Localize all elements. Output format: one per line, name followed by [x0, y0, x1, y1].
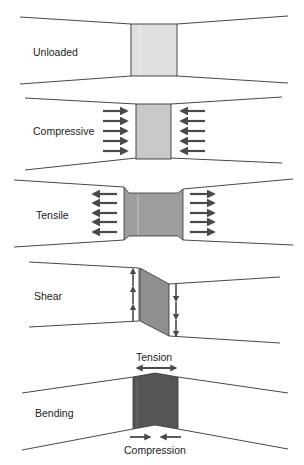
beam-right [177, 16, 288, 83]
bending-block [133, 373, 178, 429]
label-compression: Compression [124, 445, 186, 456]
beam-right [169, 277, 280, 343]
label-tensile: Tensile [36, 210, 69, 221]
label-shear: Shear [34, 291, 62, 302]
compressive-arrows-right [181, 111, 205, 151]
shear-block [140, 268, 169, 336]
label-compressive: Compressive [33, 126, 94, 137]
tensile-arrows-left [93, 194, 117, 232]
diagram-canvas [0, 0, 304, 465]
loading-types-diagram: Unloaded Compressive Tensile Shear Bendi… [0, 0, 304, 465]
compressive-block [136, 104, 171, 159]
label-unloaded: Unloaded [33, 47, 78, 58]
compressive-arrows-left [103, 111, 127, 151]
label-tension: Tension [136, 352, 172, 363]
panel-shear [29, 262, 280, 343]
tensile-arrows-right [190, 194, 214, 232]
tensile-block [124, 187, 183, 240]
beam-right [178, 377, 288, 449]
label-bending: Bending [35, 408, 74, 419]
unloaded-block [131, 24, 177, 76]
